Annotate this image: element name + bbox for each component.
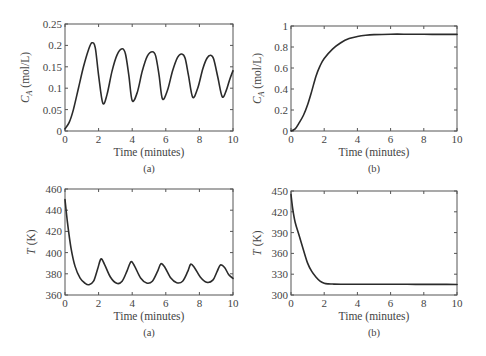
y-tick-label: 0 — [57, 125, 63, 137]
x-tick-label: 10 — [452, 133, 464, 145]
plot-ca-a: 024681000.050.10.150.20.25Time (minutes)… — [19, 18, 239, 175]
x-tick-label: 6 — [388, 297, 394, 309]
x-tick-label: 0 — [288, 297, 294, 309]
y-tick-label: 460 — [46, 183, 63, 195]
axes-frame — [65, 24, 233, 131]
x-axis-label: Time (minutes) — [339, 310, 410, 323]
y-tick-label: 380 — [46, 268, 63, 280]
y-axis-label: CA (mol/L) — [19, 52, 34, 103]
y-axis-label: T (K) — [25, 229, 38, 254]
plot-t-b: 0246810300330360390420450Time (minutes)(… — [251, 185, 463, 339]
subplot-caption: (a) — [143, 327, 155, 339]
x-tick-label: 2 — [321, 133, 327, 145]
y-tick-label: 330 — [272, 268, 289, 280]
x-tick-label: 10 — [228, 297, 240, 309]
y-tick-label: 390 — [272, 227, 289, 239]
y-axis-label: CA (mol/L) — [251, 53, 266, 104]
y-tick-label: 360 — [46, 289, 63, 301]
x-axis-label: Time (minutes) — [114, 146, 185, 159]
x-tick-label: 4 — [355, 133, 361, 145]
x-tick-label: 2 — [96, 297, 102, 309]
y-tick-label: 0.1 — [48, 82, 62, 94]
y-tick-label: 0.25 — [43, 18, 63, 30]
x-tick-label: 10 — [228, 133, 240, 145]
y-tick-label: 420 — [272, 206, 289, 218]
y-tick-label: 0.2 — [274, 104, 288, 116]
y-tick-label: 0.05 — [43, 104, 63, 116]
x-tick-label: 0 — [62, 133, 68, 145]
y-tick-label: 440 — [46, 204, 63, 216]
axes-frame — [65, 189, 233, 295]
x-tick-label: 6 — [163, 133, 169, 145]
data-curve — [65, 43, 233, 129]
data-curve — [291, 34, 457, 131]
x-axis-label: Time (minutes) — [114, 310, 185, 323]
y-tick-label: 0.4 — [274, 83, 288, 95]
x-tick-label: 8 — [421, 133, 427, 145]
x-tick-label: 6 — [388, 133, 394, 145]
data-curve — [291, 194, 457, 284]
axes-frame — [291, 191, 457, 295]
x-tick-label: 4 — [129, 297, 135, 309]
x-tick-label: 0 — [288, 133, 294, 145]
x-axis-label: Time (minutes) — [339, 146, 410, 159]
y-tick-label: 300 — [272, 289, 289, 301]
x-tick-label: 0 — [62, 297, 68, 309]
y-tick-label: 400 — [46, 247, 63, 259]
y-axis-label: T (K) — [251, 230, 264, 255]
subplot-caption: (b) — [368, 163, 381, 175]
y-tick-label: 0.6 — [274, 62, 288, 74]
y-tick-label: 420 — [46, 225, 63, 237]
subplot-caption: (a) — [143, 163, 155, 175]
data-curve — [65, 200, 233, 285]
y-tick-label: 0.8 — [274, 41, 288, 53]
y-tick-label: 0.2 — [48, 39, 62, 51]
x-tick-label: 6 — [163, 297, 169, 309]
plot-ca-b: 024681000.20.40.60.81Time (minutes)(b)CA… — [251, 20, 463, 175]
x-tick-label: 2 — [321, 297, 327, 309]
x-tick-label: 4 — [355, 297, 361, 309]
x-tick-label: 8 — [197, 133, 203, 145]
subplot-caption: (b) — [368, 327, 381, 339]
x-tick-label: 4 — [129, 133, 135, 145]
figure-canvas: 024681000.050.10.150.20.25Time (minutes)… — [0, 0, 486, 356]
y-tick-label: 0 — [283, 125, 289, 137]
x-tick-label: 2 — [96, 133, 102, 145]
x-tick-label: 8 — [197, 297, 203, 309]
y-tick-label: 450 — [272, 185, 289, 197]
y-tick-label: 1 — [283, 20, 289, 32]
x-tick-label: 10 — [452, 297, 464, 309]
plot-t-a: 0246810360380400420440460Time (minutes)(… — [25, 183, 239, 339]
y-tick-label: 360 — [272, 247, 289, 259]
x-tick-label: 8 — [421, 297, 427, 309]
y-tick-label: 0.15 — [43, 61, 63, 73]
